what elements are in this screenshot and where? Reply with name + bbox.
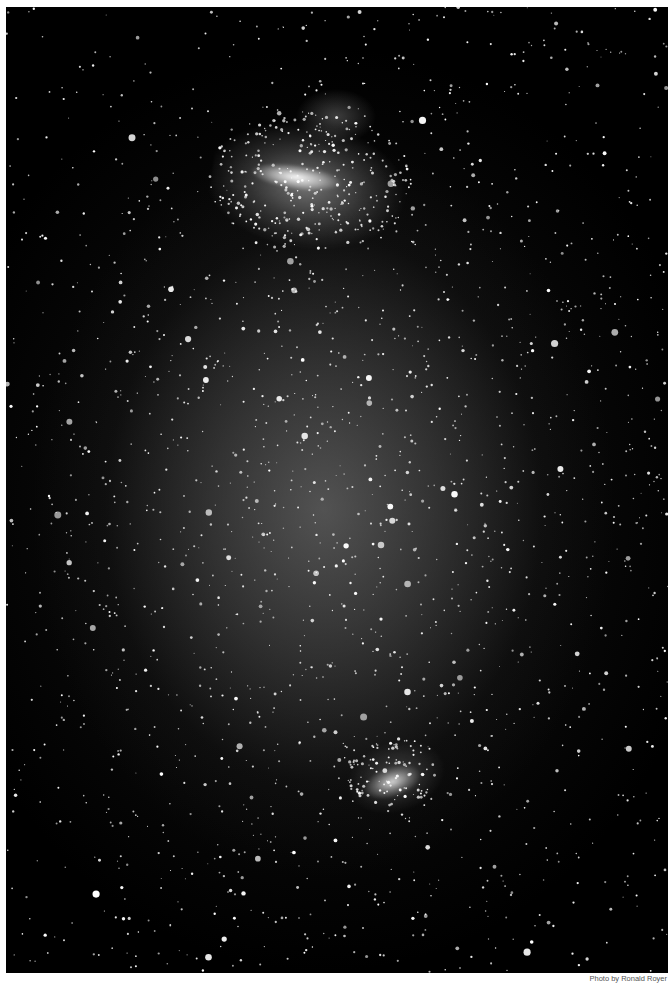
night-sky-photo	[6, 7, 668, 973]
star-field	[6, 7, 668, 973]
photo-credit: Photo by Ronald Royer	[589, 974, 667, 983]
